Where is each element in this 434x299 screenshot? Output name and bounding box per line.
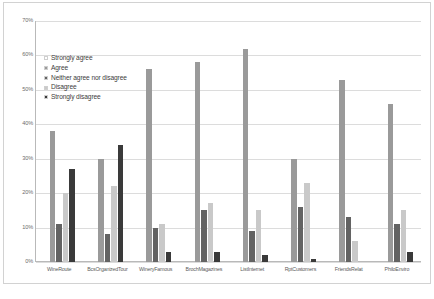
legend-label: Neither agree nor disagree bbox=[51, 75, 127, 82]
y-tick-label: 30% bbox=[3, 156, 33, 162]
bar bbox=[304, 183, 310, 262]
legend-item: Disagree bbox=[44, 84, 127, 91]
bar-group bbox=[373, 21, 421, 262]
bar-group bbox=[180, 21, 228, 262]
x-tick-label: PhiloEnviro bbox=[373, 264, 421, 280]
legend-label: Disagree bbox=[51, 84, 77, 91]
x-tick-label: ListInternet bbox=[228, 264, 276, 280]
x-axis: WineRouteBcsOrganizedTourWineryFamousBro… bbox=[35, 264, 421, 280]
legend-item: Agree bbox=[44, 65, 127, 72]
bar bbox=[98, 159, 104, 262]
bar bbox=[262, 255, 268, 262]
y-tick-label: 60% bbox=[3, 53, 33, 59]
x-tick-label: BcsOrganizedTour bbox=[83, 264, 131, 280]
legend-swatch-icon bbox=[44, 66, 48, 70]
y-axis: 70%60%50%40%30%20%10%0% bbox=[0, 21, 33, 262]
y-tick-label: 40% bbox=[3, 121, 33, 127]
x-tick-label: WineryFamous bbox=[132, 264, 180, 280]
x-tick-label: BrochMagazines bbox=[180, 264, 228, 280]
bar bbox=[118, 145, 124, 262]
bar bbox=[111, 186, 117, 262]
bar bbox=[394, 224, 400, 262]
bar bbox=[153, 228, 159, 262]
gridline bbox=[36, 262, 421, 263]
bar bbox=[56, 224, 62, 262]
legend-label: Agree bbox=[51, 65, 68, 72]
bar bbox=[339, 80, 345, 262]
legend-label: Strongly disagree bbox=[51, 94, 101, 101]
bar bbox=[407, 252, 413, 262]
bottom-strip bbox=[3, 283, 431, 296]
bar bbox=[159, 224, 165, 262]
legend-swatch-icon bbox=[44, 86, 48, 90]
bar-group bbox=[132, 21, 180, 262]
x-tick-label: RptCustomers bbox=[276, 264, 324, 280]
x-tick-label: FriendsRelat bbox=[325, 264, 373, 280]
bar bbox=[401, 210, 407, 262]
bar bbox=[69, 169, 75, 262]
bar bbox=[208, 203, 214, 262]
bar bbox=[63, 193, 69, 262]
bar-group bbox=[276, 21, 324, 262]
x-tick-label: WineRoute bbox=[35, 264, 83, 280]
bar bbox=[298, 207, 304, 262]
bar bbox=[256, 210, 262, 262]
bar-group bbox=[325, 21, 373, 262]
bar bbox=[50, 131, 56, 262]
chart-root: 70%60%50%40%30%20%10%0% Strongly agreeAg… bbox=[0, 0, 434, 299]
legend-label: Strongly agree bbox=[51, 55, 93, 62]
bar bbox=[243, 49, 249, 262]
y-tick-label: 10% bbox=[3, 225, 33, 231]
y-tick-label: 50% bbox=[3, 87, 33, 93]
bar bbox=[346, 217, 352, 262]
chart-legend: Strongly agreeAgreeNeither agree nor dis… bbox=[44, 55, 127, 101]
legend-item: Strongly agree bbox=[44, 55, 127, 62]
bar bbox=[166, 252, 172, 262]
bar bbox=[201, 210, 207, 262]
legend-item: Strongly disagree bbox=[44, 94, 127, 101]
bar bbox=[146, 69, 152, 262]
bar bbox=[105, 234, 111, 262]
legend-swatch-icon bbox=[44, 95, 48, 99]
bar bbox=[195, 62, 201, 262]
y-tick-label: 20% bbox=[3, 190, 33, 196]
y-tick-label: 70% bbox=[3, 18, 33, 24]
bar bbox=[291, 159, 297, 262]
bar bbox=[311, 259, 317, 262]
bar-group bbox=[228, 21, 276, 262]
legend-swatch-icon bbox=[44, 56, 48, 60]
legend-item: Neither agree nor disagree bbox=[44, 75, 127, 82]
bar bbox=[249, 231, 255, 262]
y-tick-label: 0% bbox=[3, 259, 33, 265]
legend-swatch-icon bbox=[44, 76, 48, 80]
bar bbox=[388, 104, 394, 262]
bar bbox=[214, 252, 220, 262]
bar bbox=[352, 241, 358, 262]
